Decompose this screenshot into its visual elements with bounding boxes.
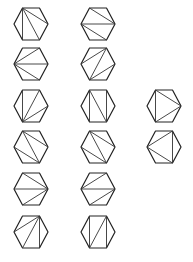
diagonal-tl-br — [23, 8, 40, 40]
triangulated-hexagon — [147, 131, 181, 163]
triangulated-hexagon — [14, 90, 48, 122]
diagonal-tl-br — [23, 131, 40, 163]
diagonal-tl-br — [90, 131, 107, 163]
diagonal-tr-bl — [90, 216, 107, 248]
triangulated-hexagon — [147, 90, 181, 122]
triangulated-hexagon — [81, 131, 115, 163]
diagonal-tl-br — [90, 90, 107, 122]
triangulated-hexagon — [14, 216, 48, 248]
triangulated-hexagon — [14, 8, 48, 40]
triangulated-hexagon — [14, 48, 48, 80]
triangulated-hexagon — [14, 131, 48, 163]
triangulated-hexagon — [14, 173, 48, 205]
triangulated-hexagon — [81, 48, 115, 80]
triangulated-hexagon — [81, 90, 115, 122]
triangulated-hexagon — [81, 216, 115, 248]
diagonal-bl-tr — [90, 48, 107, 80]
triangulated-hexagon — [81, 8, 115, 40]
diagonal-bl-tr — [23, 90, 40, 122]
hexagon-outline — [147, 131, 181, 163]
hexagon-outline — [147, 90, 181, 122]
hexagon-triangulations-diagram: Triangulations of a hexagon — [0, 0, 193, 262]
triangulated-hexagon — [81, 173, 115, 205]
diagonal-tr-bl — [23, 216, 40, 248]
